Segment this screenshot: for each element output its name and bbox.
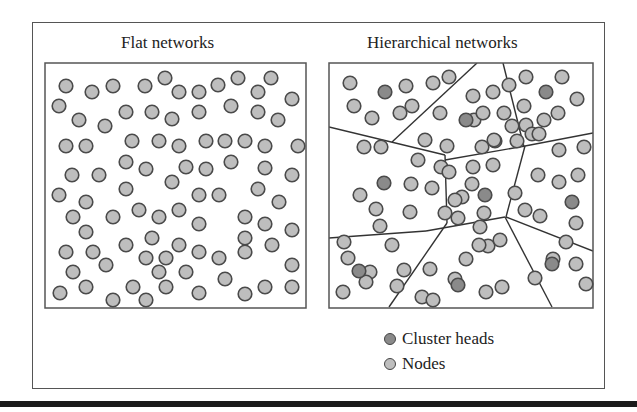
cluster-boundary xyxy=(392,63,477,142)
node xyxy=(152,210,166,224)
node xyxy=(192,245,206,259)
node xyxy=(271,113,285,127)
node xyxy=(238,210,252,224)
node xyxy=(438,206,452,220)
node xyxy=(165,175,179,189)
node xyxy=(192,286,206,300)
node xyxy=(486,85,500,99)
node xyxy=(493,233,507,247)
node xyxy=(433,106,447,120)
node xyxy=(426,293,440,307)
node xyxy=(337,235,351,249)
node xyxy=(119,105,133,119)
node xyxy=(465,177,479,191)
node xyxy=(477,206,491,220)
node xyxy=(399,79,413,93)
node xyxy=(555,70,569,84)
node xyxy=(106,210,120,224)
node-swatch-icon xyxy=(384,358,396,370)
node xyxy=(258,217,272,231)
node xyxy=(192,105,206,119)
node xyxy=(79,225,93,239)
node xyxy=(139,251,153,265)
node xyxy=(285,223,299,237)
node xyxy=(238,134,252,148)
node xyxy=(119,182,133,196)
node xyxy=(343,76,357,90)
cluster-head xyxy=(565,195,579,209)
flat-network-panel xyxy=(45,63,306,308)
cluster-head xyxy=(459,113,473,127)
node xyxy=(132,203,146,217)
legend-label-cluster-heads: Cluster heads xyxy=(402,329,494,349)
node xyxy=(537,113,551,127)
cluster-head xyxy=(377,176,391,190)
node xyxy=(552,175,566,189)
node xyxy=(79,139,93,153)
node xyxy=(571,168,585,182)
node xyxy=(79,195,93,209)
node xyxy=(517,99,531,113)
node xyxy=(238,245,252,259)
node xyxy=(85,85,99,99)
node xyxy=(165,112,179,126)
node xyxy=(519,70,533,84)
node xyxy=(442,165,456,179)
node xyxy=(353,188,367,202)
node xyxy=(98,119,112,133)
cluster-head xyxy=(451,278,465,292)
node xyxy=(502,78,516,92)
cluster-head xyxy=(352,264,366,278)
node xyxy=(559,235,573,249)
node xyxy=(472,238,486,252)
node xyxy=(125,134,139,148)
node xyxy=(272,195,286,209)
node xyxy=(374,140,388,154)
node xyxy=(466,160,480,174)
node xyxy=(79,280,93,294)
legend-label-nodes: Nodes xyxy=(402,354,445,374)
node xyxy=(224,99,238,113)
node xyxy=(145,105,159,119)
node xyxy=(505,119,519,133)
node xyxy=(390,279,404,293)
node xyxy=(92,168,106,182)
legend-nodes: Nodes xyxy=(384,354,445,374)
node xyxy=(238,231,252,245)
node xyxy=(199,162,213,176)
node xyxy=(577,140,591,154)
hierarchical-network-panel xyxy=(329,63,593,308)
node xyxy=(238,287,252,301)
node xyxy=(159,280,173,294)
node xyxy=(365,111,379,125)
node xyxy=(552,143,566,157)
cluster-head-swatch-icon xyxy=(384,333,396,345)
node xyxy=(531,168,545,182)
node xyxy=(218,134,232,148)
node xyxy=(569,257,583,271)
node xyxy=(418,133,432,147)
node xyxy=(551,106,565,120)
node xyxy=(426,76,440,90)
page-rule xyxy=(0,401,637,407)
node xyxy=(119,238,133,252)
node xyxy=(258,161,272,175)
node xyxy=(479,285,493,299)
node xyxy=(423,262,437,276)
node xyxy=(126,280,140,294)
node xyxy=(212,251,226,265)
node xyxy=(385,238,399,252)
node xyxy=(341,251,355,265)
node xyxy=(172,238,186,252)
node xyxy=(138,79,152,93)
node xyxy=(139,162,153,176)
node xyxy=(251,85,265,99)
node xyxy=(119,155,133,169)
node xyxy=(486,158,500,172)
node xyxy=(466,89,480,103)
node xyxy=(425,181,439,195)
node xyxy=(404,177,418,191)
node xyxy=(192,188,206,202)
node xyxy=(336,285,350,299)
node xyxy=(473,220,487,234)
